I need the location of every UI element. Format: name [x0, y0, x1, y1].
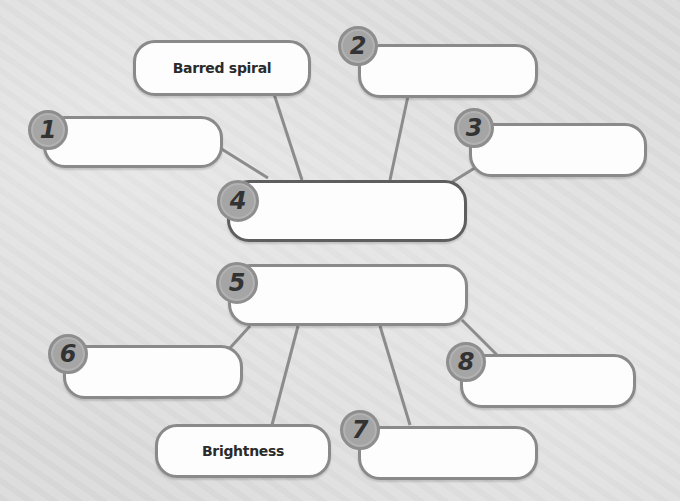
node-5-answer-box[interactable]	[228, 264, 468, 326]
badge-number: 6	[60, 340, 77, 368]
node-brightness: Brightness	[155, 424, 331, 478]
node-1-answer-box[interactable]	[43, 116, 223, 168]
badge-number: 3	[466, 114, 483, 142]
connector-5-to-7	[380, 326, 410, 425]
node-7-answer-box[interactable]	[358, 426, 538, 480]
number-badge-4: 4	[217, 180, 259, 222]
number-badge-1: 1	[28, 110, 68, 150]
badge-number: 1	[40, 116, 57, 144]
node-label: Barred spiral	[173, 60, 272, 76]
connector-2-to-4	[390, 96, 408, 180]
number-badge-7: 7	[340, 410, 380, 450]
number-badge-2: 2	[338, 26, 378, 66]
number-badge-5: 5	[216, 262, 258, 304]
node-barred-spiral: Barred spiral	[133, 40, 311, 96]
connector-5-to-6	[230, 326, 250, 348]
node-3-answer-box[interactable]	[469, 123, 647, 177]
badge-number: 7	[352, 416, 369, 444]
badge-number: 2	[350, 32, 367, 60]
badge-number: 4	[230, 187, 247, 215]
badge-number: 5	[229, 269, 246, 297]
node-4-answer-box[interactable]	[227, 180, 467, 242]
badge-number: 8	[458, 348, 475, 376]
connector-5-to-brightness	[272, 326, 298, 425]
node-6-answer-box[interactable]	[63, 345, 243, 399]
number-badge-6: 6	[48, 334, 88, 374]
connector-1-to-4	[220, 148, 268, 178]
number-badge-8: 8	[446, 342, 486, 382]
connector-barred-spiral-to-4	[274, 94, 302, 180]
node-2-answer-box[interactable]	[358, 44, 538, 98]
node-label: Brightness	[202, 443, 284, 459]
number-badge-3: 3	[454, 108, 494, 148]
node-8-answer-box[interactable]	[460, 354, 636, 408]
